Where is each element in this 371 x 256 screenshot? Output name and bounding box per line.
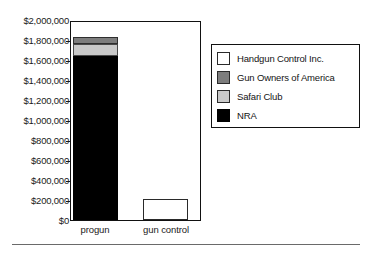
- legend-swatch-icon: [217, 109, 230, 122]
- legend-item-label: Handgun Control Inc.: [237, 53, 324, 64]
- y-axis-tick-label: $1,200,000: [0, 96, 69, 106]
- plot-area: [70, 21, 201, 221]
- y-axis-tick-label: $0: [0, 216, 69, 226]
- legend-item-label: Safari Club: [237, 91, 282, 102]
- bar-gun-control[interactable]: [143, 199, 188, 220]
- bottom-divider: [12, 244, 360, 245]
- legend-item-gun-owners-of-america[interactable]: Gun Owners of America: [217, 68, 359, 87]
- x-axis-label-progun: progun: [70, 224, 120, 235]
- y-axis-tick-label: $1,800,000: [0, 36, 69, 46]
- y-axis-tick-label: $800,000: [0, 136, 69, 146]
- legend: Handgun Control Inc. Gun Owners of Ameri…: [211, 44, 360, 128]
- legend-item-safari-club[interactable]: Safari Club: [217, 87, 359, 106]
- bar-segment-handgun-control-inc[interactable]: [143, 199, 188, 220]
- legend-swatch-icon: [217, 90, 230, 103]
- y-axis-tick-label: $2,000,000: [0, 16, 69, 26]
- y-axis-tick-label: $400,000: [0, 176, 69, 186]
- y-axis-tick-label: $1,000,000: [0, 116, 69, 126]
- y-axis-tick-label: $600,000: [0, 156, 69, 166]
- legend-item-handgun-control-inc[interactable]: Handgun Control Inc.: [217, 49, 359, 68]
- bar-segment-nra[interactable]: [73, 56, 118, 220]
- bar-progun[interactable]: [73, 37, 118, 220]
- legend-item-label: Gun Owners of America: [237, 72, 335, 83]
- y-axis-tick-label: $1,600,000: [0, 56, 69, 66]
- bar-segment-gun-owners-of-america[interactable]: [73, 37, 118, 44]
- legend-item-nra[interactable]: NRA: [217, 106, 359, 125]
- legend-item-label: NRA: [237, 110, 257, 121]
- chart-figure: $2,000,000 $1,800,000 $1,600,000 $1,400,…: [0, 0, 371, 256]
- y-axis-tick-label: $1,400,000: [0, 76, 69, 86]
- legend-swatch-icon: [217, 71, 230, 84]
- bar-segment-safari-club[interactable]: [73, 44, 118, 56]
- y-axis-tick-label: $200,000: [0, 196, 69, 206]
- legend-swatch-icon: [217, 52, 230, 65]
- x-axis-label-gun-control: gun control: [133, 224, 199, 235]
